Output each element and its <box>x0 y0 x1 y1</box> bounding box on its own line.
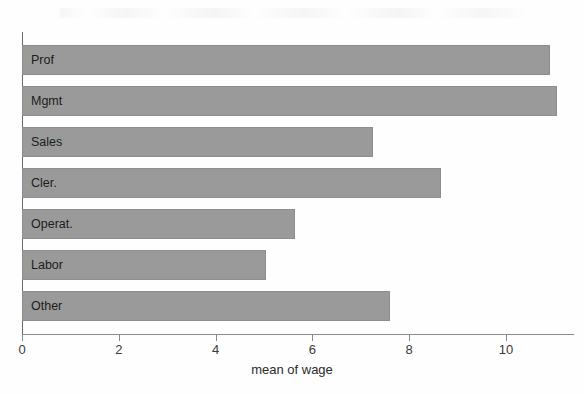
x-axis-tick <box>216 335 217 341</box>
x-axis-line <box>22 334 574 335</box>
x-axis-tick-label: 10 <box>499 342 513 358</box>
x-axis-tick <box>506 335 507 341</box>
bar <box>22 209 295 239</box>
x-axis-tick-label: 8 <box>406 342 413 358</box>
plot-area: ProfMgmtSalesCler.Operat.LaborOther 0246… <box>0 0 584 394</box>
bar <box>22 291 390 321</box>
x-axis-tick-label: 4 <box>212 342 219 358</box>
bar <box>22 168 441 198</box>
bar <box>22 127 373 157</box>
x-axis-tick <box>409 335 410 341</box>
bar-chart: ProfMgmtSalesCler.Operat.LaborOther 0246… <box>0 0 584 394</box>
bar <box>22 86 557 116</box>
bar <box>22 250 266 280</box>
x-axis-title: mean of wage <box>0 362 584 377</box>
x-axis-tick <box>22 335 23 341</box>
x-axis-tick-label: 6 <box>309 342 316 358</box>
x-axis-tick <box>119 335 120 341</box>
bar <box>22 45 550 75</box>
x-axis-tick <box>312 335 313 341</box>
x-axis-tick-label: 2 <box>115 342 122 358</box>
x-axis-tick-label: 0 <box>18 342 25 358</box>
